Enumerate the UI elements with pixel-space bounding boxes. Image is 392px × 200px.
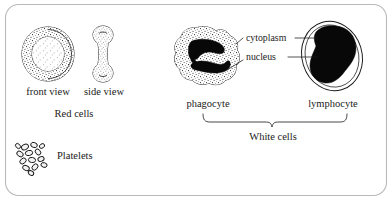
callout-label-nucleus: nucleus: [246, 51, 276, 62]
platelet-cluster-icon: [14, 142, 47, 177]
blood-cells-diagram: front view side view Red cells Platelets: [0, 0, 392, 200]
leader-cytoplasm-phagocyte: [236, 38, 243, 44]
label-front-view: front view: [26, 86, 70, 97]
group-label-white-cells: White cells: [249, 131, 297, 142]
callout-label-cytoplasm: cytoplasm: [246, 32, 287, 43]
lymphocyte-cell-icon: [293, 14, 371, 98]
phagocyte-cell-icon: [170, 24, 244, 88]
label-lymphocyte: lymphocyte: [308, 98, 358, 109]
figure-canvas: front view side view Red cells Platelets: [0, 0, 392, 200]
label-platelets: Platelets: [57, 150, 93, 161]
curly-brace-icon: [203, 114, 347, 127]
group-label-red-cells: Red cells: [55, 108, 94, 119]
red-blood-cell-front-view-icon: [20, 25, 78, 85]
label-phagocyte: phagocyte: [186, 98, 229, 109]
label-side-view: side view: [84, 86, 124, 97]
red-blood-cell-side-view-icon: [90, 24, 118, 84]
